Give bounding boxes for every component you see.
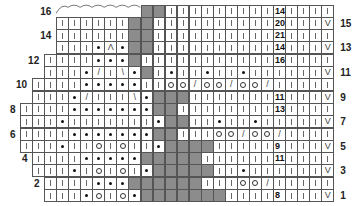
stitch-cell [104,91,117,104]
purl-icon [109,133,112,136]
stitch-cell [225,115,238,128]
knit-icon [195,57,196,63]
knit-icon [255,8,256,14]
stitch-cell [201,29,214,42]
k2tog-icon: / [85,93,88,102]
knit-icon [171,20,172,26]
ssk-icon: \ [122,68,125,77]
purl-icon [109,108,112,111]
knit-icon [267,70,268,76]
no-stitch-cell [177,91,190,104]
knit-icon [207,180,208,186]
stitch-cell [201,41,214,54]
purl-icon [133,83,136,86]
knit-icon [62,57,63,63]
yarn-over-icon [216,131,222,137]
purl-icon [97,59,100,62]
stitch-cell [201,115,214,128]
yarn-over-icon [168,82,174,88]
knit-icon [315,106,316,112]
stitch-cell [285,177,298,190]
stitch-cell [297,5,310,18]
knit-icon [327,33,328,39]
stitch-cell [92,140,105,153]
stitch-cell [201,66,214,79]
stitch-cell [249,5,262,18]
knit-icon [195,70,196,76]
knit-icon [303,94,304,100]
knit-icon [74,57,75,63]
knit-icon [110,20,111,26]
stitch-cell [321,29,334,42]
knit-icon [158,57,159,63]
stitch-cell [273,66,286,79]
knit-icon [195,45,196,51]
stitch-cell [92,91,105,104]
stitch-cell [141,128,154,141]
no-stitch-cell [177,177,190,190]
knit-icon [327,156,328,162]
knit-icon [219,8,220,14]
purl-icon [121,83,124,86]
repeat-count-cell: 11 [273,91,286,104]
knit-icon [26,131,27,137]
no-stitch-cell [165,115,178,128]
purl-icon [109,182,112,185]
knit-icon [195,131,196,137]
knit-icon [231,180,232,186]
row-label-left: 4 [22,153,28,164]
row-label-right: 9 [340,92,346,103]
knit-icon [62,131,63,137]
stitch-cell [213,128,226,141]
stitch-cell [68,91,81,104]
purl-icon [97,46,100,49]
stitch-cell [261,164,274,177]
knit-icon [327,82,328,88]
stitch-cell [80,78,93,91]
stitch-cell [44,140,57,153]
knit-icon [183,131,184,137]
stitch-cell [309,177,322,190]
stitch-cell [309,103,322,116]
no-stitch-cell [141,177,154,190]
k2tog-icon: / [194,80,197,89]
purl-icon [85,194,88,197]
stitch-cell [116,91,129,104]
purl-icon [85,83,88,86]
double-decrease-icon: Λ [108,43,114,52]
knit-icon [110,70,111,76]
stitch-cell [56,54,69,67]
stitch-cell [249,91,262,104]
stitch-cell [309,29,322,42]
row-label-left: 10 [16,79,27,90]
knit-icon [74,156,75,162]
knit-icon [158,45,159,51]
stitch-cell [189,115,202,128]
stitch-cell [321,152,334,165]
stitch-cell [128,140,141,153]
stitch-cell: V [321,91,334,104]
stitch-cell [273,164,286,177]
stitch-cell [20,103,33,116]
stitch-cell [128,103,141,116]
stitch-cell [273,115,286,128]
stitch-cell [56,91,69,104]
row-label-right: 5 [340,141,346,152]
stitch-cell [56,115,69,128]
stitch-cell [201,91,214,104]
stitch-cell [68,115,81,128]
purl-icon [97,182,100,185]
knit-icon [243,45,244,51]
knit-icon [62,106,63,112]
yarn-over-icon [120,143,126,149]
stitch-cell: Λ [104,41,117,54]
stitch-cell [104,103,117,116]
knit-icon [255,94,256,100]
stitch-cell [56,177,69,190]
knit-icon [38,106,39,112]
knit-icon [267,8,268,14]
stitch-cell [189,91,202,104]
knit-icon [315,33,316,39]
stitch-cell [309,41,322,54]
stitch-cell [44,115,57,128]
